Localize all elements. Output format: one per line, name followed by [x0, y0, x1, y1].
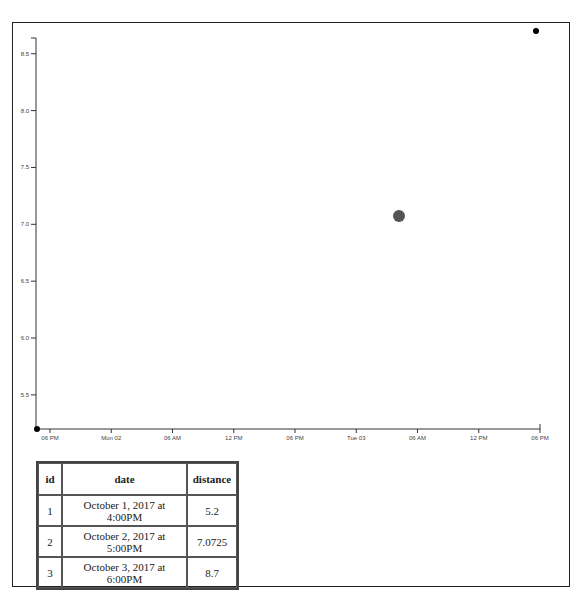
y-tick-label: 8.5: [21, 51, 30, 57]
cell-distance: 5.2: [187, 495, 237, 526]
y-tick-label: 7.0: [21, 221, 30, 227]
cell-id: 1: [38, 495, 62, 526]
data-table: id date distance 1 October 1, 2017 at 4:…: [36, 461, 239, 590]
cell-id: 2: [38, 526, 62, 557]
x-axis: [36, 424, 540, 429]
header-date: date: [62, 463, 187, 495]
table-row: 3 October 3, 2017 at 6:00PM 8.7: [38, 557, 237, 588]
data-point[interactable]: [533, 28, 539, 34]
cell-date: October 1, 2017 at 4:00PM: [62, 495, 187, 526]
x-tick-label: 06 PM: [531, 435, 548, 441]
table-row: 1 October 1, 2017 at 4:00PM 5.2: [38, 495, 237, 526]
table-header-row: id date distance: [38, 463, 237, 495]
cell-distance: 8.7: [187, 557, 237, 588]
y-tick-label: 7.5: [21, 164, 30, 170]
x-tick-label: 06 AM: [409, 435, 426, 441]
y-tick-label: 8.0: [21, 108, 30, 114]
y-tick-label: 6.5: [21, 278, 30, 284]
data-points: [34, 28, 539, 432]
data-point[interactable]: [34, 426, 40, 432]
x-tick-label: 06 PM: [286, 435, 303, 441]
x-tick-label: 06 PM: [41, 435, 58, 441]
cell-date: October 2, 2017 at 5:00PM: [62, 526, 187, 557]
x-axis-ticks: 06 PMMon 0206 AM12 PM06 PMTue 0306 AM12 …: [41, 429, 548, 441]
cell-distance: 7.0725: [187, 526, 237, 557]
x-tick-label: 06 AM: [164, 435, 181, 441]
data-point[interactable]: [393, 210, 405, 222]
y-tick-label: 6.0: [21, 335, 30, 341]
y-axis: [31, 38, 36, 429]
x-tick-label: Tue 03: [347, 435, 366, 441]
x-tick-label: 12 PM: [225, 435, 242, 441]
x-tick-label: 12 PM: [470, 435, 487, 441]
x-tick-label: Mon 02: [101, 435, 122, 441]
cell-id: 3: [38, 557, 62, 588]
header-distance: distance: [187, 463, 237, 495]
table-row: 2 October 2, 2017 at 5:00PM 7.0725: [38, 526, 237, 557]
header-id: id: [38, 463, 62, 495]
y-tick-label: 5.5: [21, 392, 30, 398]
y-axis-ticks: 5.56.06.57.07.58.08.5: [21, 51, 36, 398]
cell-date: October 3, 2017 at 6:00PM: [62, 557, 187, 588]
